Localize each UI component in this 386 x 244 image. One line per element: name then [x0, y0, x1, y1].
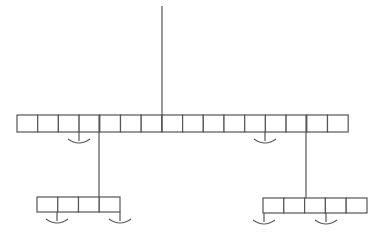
top-array-cell: [38, 115, 59, 132]
bottom-left-array-cell: [37, 197, 58, 212]
bottom-right-array-cell: [325, 198, 346, 213]
top-array-cell: [307, 115, 328, 132]
bottom-right-array-cell: [284, 198, 305, 213]
diagram-canvas: [0, 0, 386, 244]
top-array-cell: [79, 115, 100, 132]
top-array-cell: [17, 115, 38, 132]
bottom-left-array-cell: [99, 197, 120, 212]
bottom-right-array-cell: [263, 198, 284, 213]
top-array-cell: [141, 115, 162, 132]
top-array-cell: [183, 115, 204, 132]
top-array-cell: [245, 115, 266, 132]
top-array-cell: [162, 115, 183, 132]
top-array-cell: [203, 115, 224, 132]
top-array-cell: [328, 115, 349, 132]
top-array-cell: [58, 115, 79, 132]
top-array-cell: [286, 115, 307, 132]
top-array-cell: [224, 115, 245, 132]
bottom-left-array-cell: [58, 197, 79, 212]
bottom-right-array-cell: [305, 198, 326, 213]
top-array-cell: [100, 115, 121, 132]
bottom-right-array-cell: [346, 198, 367, 213]
top-array-cell: [121, 115, 142, 132]
array-tree-diagram: [0, 0, 386, 244]
bottom-left-array-cell: [79, 197, 100, 212]
top-array-cell: [265, 115, 286, 132]
